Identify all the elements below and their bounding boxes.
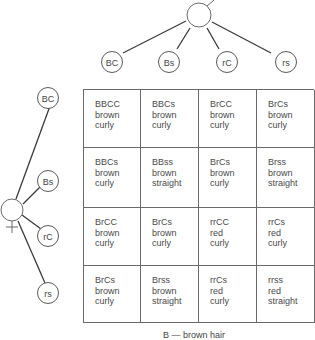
grid-cell: rrCsredcurly (257, 208, 315, 266)
grid-cell: BrCsbrowncurly (141, 208, 199, 266)
grid-cell: BrCCbrowncurly (84, 208, 141, 266)
grid-cell: BBCsbrowncurly (84, 148, 141, 208)
female-gamete-BC: BC (37, 87, 59, 109)
male-gamete-rs: rs (275, 51, 297, 73)
grid-cell: BBCCbrowncurly (84, 90, 141, 148)
grid-cell: BBssbrownstraight (141, 148, 199, 208)
grid-cell: rrssredstraight (257, 266, 315, 323)
grid-cell: BrCCbrowncurly (199, 90, 257, 148)
grid-cell: rrCCredcurly (199, 208, 257, 266)
female-gamete-Bs: Bs (37, 170, 59, 192)
female-gamete-rC: rC (37, 225, 59, 247)
grid-cell: Brssbrownstraight (141, 266, 199, 323)
grid-cell: BrCsbrowncurly (84, 266, 141, 323)
grid-cell: BrCsbrowncurly (199, 148, 257, 208)
legend-caption: B — brown hair (163, 330, 225, 340)
punnett-square: BBCCbrowncurly BBCsbrowncurly BrCCbrownc… (83, 89, 314, 323)
male-gamete-rC: rC (216, 51, 238, 73)
grid-cell: BrCsbrowncurly (257, 90, 315, 148)
male-gamete-BC: BC (101, 51, 123, 73)
grid-cell: rrCsredcurly (199, 266, 257, 323)
grid-cell: Brssbrownstraight (257, 148, 315, 208)
female-gamete-rs: rs (37, 282, 59, 304)
male-gamete-Bs: Bs (158, 51, 180, 73)
grid-cell: BBCsbrowncurly (141, 90, 199, 148)
